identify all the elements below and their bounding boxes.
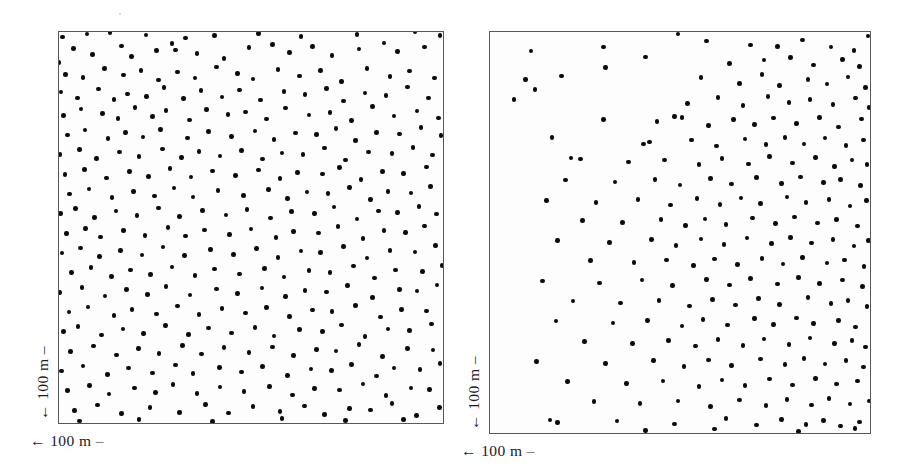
left-point-pattern-panel: [58, 31, 444, 424]
left-panel-frame: [58, 31, 444, 424]
right-y-axis-label: ← 100 m –: [465, 356, 483, 430]
scan-artifact-speck: [119, 13, 121, 15]
right-panel-frame: [489, 31, 871, 434]
right-point-pattern-panel: [489, 31, 871, 434]
left-y-axis-label: ← 100 m –: [34, 346, 52, 420]
left-x-axis-label: ← 100 m –: [30, 432, 104, 450]
right-x-axis-label: ← 100 m –: [461, 442, 535, 460]
point-pattern-figure: ← 100 m – ← 100 m – ← 100 m – ← 100 m –: [0, 0, 916, 472]
